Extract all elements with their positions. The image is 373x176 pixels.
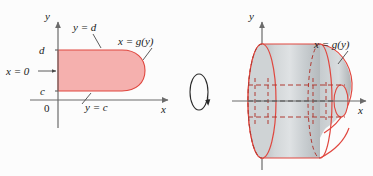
left-panel: y x 0 d c y = d x = g(y) y = c x = 0 — [5, 10, 168, 128]
label-left-edge: x = 0 — [5, 65, 30, 77]
right-panel: y x x = g(y) — [232, 10, 366, 170]
leader-top-curve — [93, 34, 101, 48]
label-right-curve: x = g(y) — [117, 35, 154, 48]
region-fill — [58, 50, 145, 91]
origin-label: 0 — [44, 102, 50, 114]
left-x-axis-label: x — [160, 103, 166, 115]
leader-right-curve — [143, 48, 152, 60]
left-y-axis-label: y — [44, 10, 50, 22]
figure-root: y x 0 d c y = d x = g(y) y = c x = 0 — [0, 0, 373, 176]
tick-label-d: d — [39, 44, 45, 56]
figure-svg: y x 0 d c y = d x = g(y) y = c x = 0 — [0, 0, 373, 176]
right-y-axis-label: y — [248, 10, 254, 22]
label-bottom-curve: y = c — [84, 101, 108, 113]
rotation-arrow — [190, 74, 208, 110]
rotation-ellipse — [190, 74, 208, 110]
label-surface: x = g(y) — [313, 38, 350, 51]
rotation-arrowhead — [208, 97, 209, 103]
label-top-curve: y = d — [72, 21, 97, 33]
right-x-axis-label: x — [357, 104, 363, 116]
tick-label-c: c — [40, 85, 45, 97]
